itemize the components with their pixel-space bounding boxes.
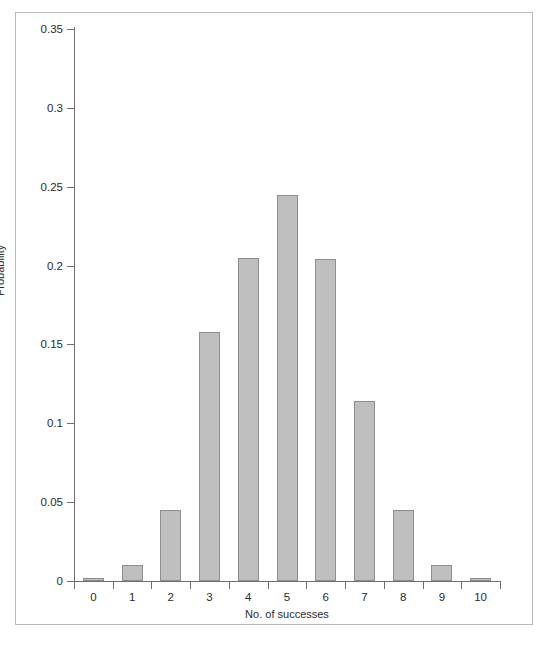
bar [470,578,491,581]
bar [354,401,375,581]
x-axis-tick-label: 9 [439,591,445,603]
x-axis-tick [306,581,307,589]
x-axis-tick [113,581,114,589]
y-axis-tick-label: 0.3 [47,102,63,114]
y-axis-tick-labels: 00.050.10.150.20.250.30.35 [0,0,63,646]
y-axis-tick-label: 0.15 [41,338,63,350]
y-axis-tick [67,502,75,503]
y-axis-tick-label: 0.05 [41,496,63,508]
bar [199,332,220,581]
y-axis-tick-label: 0.2 [47,260,63,272]
y-axis-tick [67,344,75,345]
y-axis-tick [67,266,75,267]
x-axis-tick [190,581,191,589]
bar [238,258,259,581]
y-axis-tick-label: 0 [57,575,63,587]
x-axis-tick-label: 3 [206,591,212,603]
x-axis-tick [384,581,385,589]
bar [160,510,181,581]
figure-canvas: 00.050.10.150.20.250.30.35 012345678910 … [0,0,549,646]
x-axis-tick [500,581,501,589]
x-axis-tick-label: 1 [129,591,135,603]
x-axis-tick-label: 5 [284,591,290,603]
x-axis-tick-label: 4 [245,591,251,603]
y-axis-tick-label: 0.35 [41,23,63,35]
x-axis-line [74,581,500,582]
bar [122,565,143,581]
y-axis-tick [67,187,75,188]
x-axis-tick-label: 7 [361,591,367,603]
x-axis-tick [423,581,424,589]
x-axis-tick-label: 10 [474,591,487,603]
bar [431,565,452,581]
bar [393,510,414,581]
x-axis-tick [345,581,346,589]
x-axis-tick-label: 0 [90,591,96,603]
y-axis-tick-label: 0.1 [47,417,63,429]
x-axis-tick [229,581,230,589]
y-axis-tick [67,108,75,109]
x-axis-tick-label: 2 [168,591,174,603]
bar [83,578,104,581]
y-axis-tick-label: 0.25 [41,181,63,193]
x-axis-tick-label: 8 [400,591,406,603]
x-axis-tick-label: 6 [323,591,329,603]
y-axis-line [74,27,75,583]
y-axis-tick [67,29,75,30]
bar [315,259,336,581]
figure-frame [15,12,533,625]
x-axis-tick [151,581,152,589]
x-axis-tick [461,581,462,589]
bar [277,195,298,581]
y-axis-tick [67,423,75,424]
x-axis-title: No. of successes [74,608,500,620]
y-axis-title: Probability [0,245,6,296]
x-axis-tick [74,581,75,589]
x-axis-tick [268,581,269,589]
